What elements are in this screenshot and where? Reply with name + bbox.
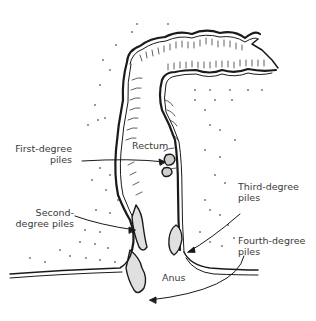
first-degree-piles-label: First-degree piles — [10, 143, 72, 165]
second-degree-piles-label: Second- degree piles — [8, 207, 74, 229]
rectum-label: Rectum — [132, 140, 168, 151]
third-degree-piles-label: Third-degree piles — [238, 181, 299, 203]
fourth-degree-piles-label: Fourth-degree piles — [238, 235, 305, 257]
anus-label: Anus — [162, 272, 186, 283]
